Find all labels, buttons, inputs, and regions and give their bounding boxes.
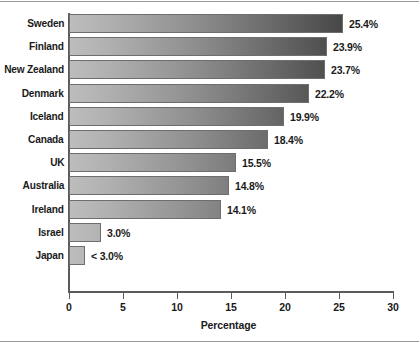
bar-value-label: 23.9% (333, 41, 362, 53)
plot-area: 25.4%23.9%23.7%22.2%19.9%18.4%15.5%14.8%… (69, 14, 393, 291)
x-tick (339, 293, 340, 299)
bar-value-label: 18.4% (274, 134, 303, 146)
bar-chart-figure: SwedenFinlandNew ZealandDenmarkIcelandCa… (0, 0, 419, 353)
category-label-australia: Australia (22, 176, 64, 195)
category-label-uk: UK (50, 153, 64, 172)
category-label-finland: Finland (29, 37, 64, 56)
bar-row: 23.7% (69, 60, 393, 79)
x-tick (285, 293, 286, 299)
category-label-canada: Canada (29, 130, 64, 149)
category-label-japan: Japan (36, 246, 64, 265)
bar-row: 14.1% (69, 200, 393, 219)
bar-value-label: 14.1% (227, 204, 256, 216)
x-tick (177, 293, 178, 299)
category-label-iceland: Iceland (30, 107, 64, 126)
bar-row: 15.5% (69, 153, 393, 172)
bar-value-label: < 3.0% (91, 250, 123, 262)
category-label-new-zealand: New Zealand (4, 60, 64, 79)
bar-row: 23.9% (69, 37, 393, 56)
x-tick-label: 15 (216, 301, 246, 313)
x-tick-label: 30 (378, 301, 408, 313)
x-tick (69, 293, 70, 299)
bar-value-label: 3.0% (107, 227, 130, 239)
x-tick-label: 0 (54, 301, 84, 313)
bar-value-label: 15.5% (242, 157, 271, 169)
bar-value-label: 19.9% (290, 111, 319, 123)
bar-finland (69, 37, 327, 56)
bar-value-label: 25.4% (349, 18, 378, 30)
x-axis-title: Percentage (0, 319, 419, 331)
bar-value-label: 14.8% (235, 180, 264, 192)
category-label-ireland: Ireland (32, 200, 64, 219)
bar-sweden (69, 14, 343, 33)
bar-row: < 3.0% (69, 246, 393, 265)
bar-australia (69, 176, 229, 195)
bar-uk (69, 153, 236, 172)
bar-row: 22.2% (69, 84, 393, 103)
figure-top-rule (0, 1, 419, 2)
bar-ireland (69, 200, 221, 219)
bar-row: 14.8% (69, 176, 393, 195)
x-tick-label: 10 (162, 301, 192, 313)
bar-value-label: 22.2% (315, 88, 344, 100)
bar-iceland (69, 107, 284, 126)
x-tick-label: 5 (108, 301, 138, 313)
bar-row: 18.4% (69, 130, 393, 149)
x-tick-label: 25 (324, 301, 354, 313)
x-tick-label: 20 (270, 301, 300, 313)
category-label-israel: Israel (39, 223, 64, 242)
bar-israel (69, 223, 101, 242)
bar-row: 19.9% (69, 107, 393, 126)
figure-bottom-rule (0, 341, 419, 342)
x-axis-title-text: Percentage (201, 319, 257, 331)
x-tick (231, 293, 232, 299)
category-label-sweden: Sweden (27, 14, 64, 33)
bar-row: 25.4% (69, 14, 393, 33)
x-tick (123, 293, 124, 299)
bar-japan (69, 246, 85, 265)
bar-canada (69, 130, 268, 149)
bar-row: 3.0% (69, 223, 393, 242)
x-tick (393, 293, 394, 299)
bar-new-zealand (69, 60, 325, 79)
bar-value-label: 23.7% (331, 64, 360, 76)
category-label-denmark: Denmark (22, 84, 64, 103)
bar-denmark (69, 84, 309, 103)
